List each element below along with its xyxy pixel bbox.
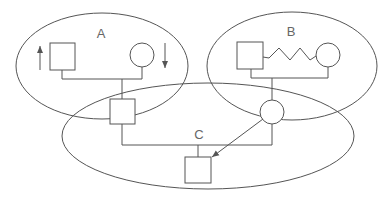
directed-arrow-icon [212,119,263,157]
a-male-square [50,43,75,70]
c-child-square [185,157,211,183]
ac-male-square [110,99,135,124]
group-c-label: C [194,127,203,142]
group-b-label: B [287,24,296,39]
bc-female-circle [260,100,284,124]
group-a-label: A [97,26,106,41]
a-female-circle [130,43,154,67]
pedigree-diagram: A B C [0,0,389,201]
b-female-circle [316,43,340,67]
zigzag-relationship-line [263,48,316,60]
b-male-square [237,42,263,69]
